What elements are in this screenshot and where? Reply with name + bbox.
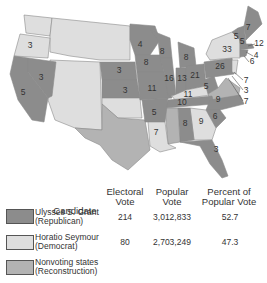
election-map-1868: 3 5 3 3 3 4 8 11 8 8 16 13 21 11 5 26 33… (0, 0, 267, 180)
grant-electoral-vote: 214 (112, 212, 138, 222)
svg-text:9: 9 (216, 94, 221, 104)
svg-text:5: 5 (204, 81, 209, 91)
state-kansas (102, 80, 140, 98)
svg-text:26: 26 (215, 61, 225, 71)
svg-text:3: 3 (28, 40, 33, 50)
svg-text:7: 7 (154, 127, 159, 137)
svg-text:3: 3 (123, 85, 128, 95)
svg-text:5: 5 (240, 36, 245, 46)
svg-text:10: 10 (177, 97, 187, 107)
legend-table: Candidate Electoral Vote Popular Vote Pe… (0, 180, 267, 283)
svg-text:3: 3 (117, 65, 122, 75)
svg-text:5: 5 (152, 107, 157, 117)
svg-text:8: 8 (160, 46, 165, 56)
nonvoting-states: Nonvoting states (Reconstruction) (35, 258, 98, 276)
svg-text:7: 7 (246, 22, 251, 32)
svg-text:21: 21 (190, 70, 200, 80)
swatch-republican (6, 209, 34, 224)
svg-text:6: 6 (213, 111, 218, 121)
svg-text:13: 13 (177, 73, 187, 83)
state-florida (180, 140, 228, 178)
header-electoral-vote: Electoral Vote (102, 187, 148, 207)
swatch-democrat (6, 235, 34, 250)
svg-text:6: 6 (250, 56, 255, 66)
header-popular-vote: Popular Vote (150, 187, 194, 207)
seymour-percent: 47.3 (215, 237, 245, 247)
state-minnesota (130, 24, 160, 55)
svg-text:5: 5 (21, 87, 26, 97)
candidate-grant: Ulysses S. Grant (Republican) (35, 208, 99, 226)
svg-text:3: 3 (214, 144, 219, 154)
seymour-popular-vote: 2,703,249 (150, 237, 194, 247)
svg-text:3: 3 (39, 72, 44, 82)
svg-text:3: 3 (244, 85, 249, 95)
svg-text:11: 11 (148, 83, 157, 93)
svg-text:7: 7 (244, 75, 249, 85)
header-percent-popular-vote: Percent of Popular Vote (196, 187, 262, 207)
state-connecticut (240, 50, 248, 57)
swatch-nonvoting (6, 260, 34, 275)
grant-popular-vote: 3,012,833 (150, 212, 194, 222)
svg-text:8: 8 (184, 52, 189, 62)
svg-text:5: 5 (234, 31, 239, 41)
svg-text:16: 16 (164, 73, 174, 83)
svg-text:8: 8 (144, 57, 149, 67)
svg-text:4: 4 (254, 50, 259, 60)
candidate-seymour: Horatio Seymour (Democrat) (35, 233, 99, 251)
svg-text:33: 33 (222, 44, 232, 54)
seymour-electoral-vote: 80 (112, 237, 138, 247)
svg-text:4: 4 (138, 39, 143, 49)
grant-percent: 52.7 (215, 212, 245, 222)
svg-text:7: 7 (244, 96, 249, 106)
svg-text:8: 8 (183, 118, 188, 128)
svg-text:12: 12 (254, 38, 264, 48)
state-new-jersey (232, 60, 238, 74)
svg-text:9: 9 (199, 116, 204, 126)
